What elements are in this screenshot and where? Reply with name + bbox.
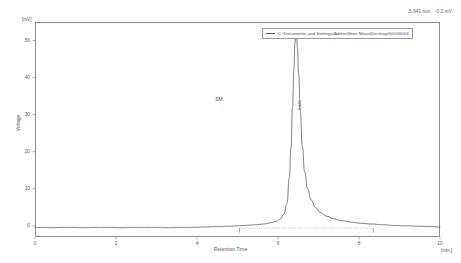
chromatogram-plot[interactable] [0, 0, 461, 263]
series-legend[interactable]: C:\Documents and Settings\Admin\Start Me… [262, 28, 413, 39]
chromatogram-viewer: 5.941 min -0.2 mV [mV] [min.] Voltage Re… [0, 0, 461, 263]
legend-series-label: C:\Documents and Settings\Admin\Start Me… [278, 31, 409, 36]
legend-line-swatch [266, 33, 275, 34]
sample-label-annotation: SM [215, 96, 223, 102]
peak-retention-label: 6.449 [298, 101, 302, 111]
